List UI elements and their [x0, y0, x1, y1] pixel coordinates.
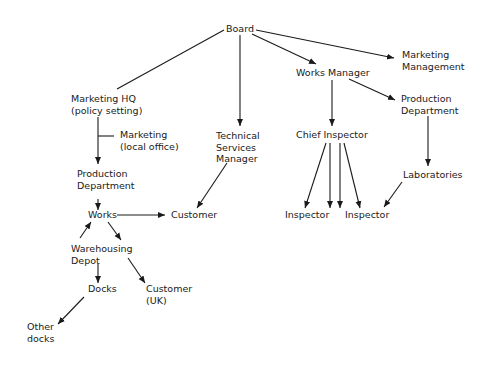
node-label-line: Laboratories — [403, 169, 463, 180]
node-label-line: Board — [226, 23, 254, 34]
edge-technical-services-manager-to-customer — [197, 163, 227, 208]
node-technical-services-manager: TechnicalServicesManager — [215, 130, 260, 164]
edge-chief-inspector-to-inspector-1 — [305, 143, 326, 208]
node-label-line: Other — [27, 321, 54, 332]
node-label-line: Works — [88, 209, 117, 220]
node-label-line: Customer — [171, 209, 217, 220]
node-customer-uk: Customer(UK) — [146, 283, 192, 306]
organisation-diagram: BoardMarketingManagementWorks ManagerMar… — [0, 0, 486, 367]
node-label-line: Chief Inspector — [296, 129, 368, 140]
node-label-line: Production — [401, 93, 452, 104]
node-label-line: Department — [401, 105, 459, 116]
edge-warehousing-depot-to-works — [80, 222, 91, 238]
node-laboratories: Laboratories — [403, 169, 463, 180]
node-label-line: Department — [77, 180, 135, 191]
node-production-department-right: ProductionDepartment — [401, 93, 459, 116]
node-label-line: Marketing — [402, 49, 449, 60]
node-label-line: Production — [77, 168, 128, 179]
edge-board-to-marketing-management — [256, 30, 394, 58]
node-works: Works — [88, 209, 117, 220]
node-inspector-1: Inspector — [285, 209, 329, 220]
node-warehousing-depot: WarehousingDepot — [71, 243, 133, 266]
node-customer: Customer — [171, 209, 217, 220]
node-works-manager: Works Manager — [296, 67, 370, 78]
node-production-department-left: ProductionDepartment — [77, 168, 135, 191]
node-label-line: Inspector — [345, 209, 389, 220]
node-label-line: Customer — [146, 283, 192, 294]
node-label-line: Depot — [71, 255, 100, 266]
node-marketing-local: Marketing(local office) — [120, 129, 179, 152]
node-label-line: Technical — [215, 130, 260, 141]
edge-works-manager-to-production-department-right — [349, 79, 395, 100]
edge-warehousing-depot-to-customer-uk — [128, 258, 145, 283]
edge-laboratories-to-inspector-2 — [384, 182, 402, 207]
node-label-line: Docks — [88, 283, 117, 294]
node-chief-inspector: Chief Inspector — [296, 129, 368, 140]
node-marketing-hq: Marketing HQ(policy setting) — [71, 93, 142, 116]
edge-chief-inspector-to-inspector-2 — [344, 143, 360, 208]
node-label-line: (UK) — [146, 295, 167, 306]
node-other-docks: Otherdocks — [27, 321, 55, 344]
node-label-line: Management — [402, 61, 465, 72]
node-label-line: docks — [27, 333, 55, 344]
node-marketing-management: MarketingManagement — [402, 49, 465, 72]
nodes-layer: BoardMarketingManagementWorks ManagerMar… — [27, 23, 465, 344]
edge-works-to-warehousing-depot — [108, 222, 121, 240]
node-label-line: Services — [216, 142, 256, 153]
node-inspector-2: Inspector — [345, 209, 389, 220]
node-label-line: (local office) — [120, 141, 179, 152]
node-label-line: Inspector — [285, 209, 329, 220]
edge-board-to-marketing-hq — [117, 30, 224, 89]
node-board: Board — [226, 23, 254, 34]
edge-board-to-works-manager — [252, 34, 316, 64]
node-label-line: Marketing HQ — [71, 93, 136, 104]
node-label-line: Warehousing — [71, 243, 133, 254]
node-label-line: Marketing — [120, 129, 167, 140]
node-docks: Docks — [88, 283, 117, 294]
node-label-line: Manager — [216, 153, 258, 164]
edge-docks-to-other-docks — [58, 297, 84, 324]
node-label-line: (policy setting) — [71, 105, 142, 116]
node-label-line: Works Manager — [296, 67, 370, 78]
